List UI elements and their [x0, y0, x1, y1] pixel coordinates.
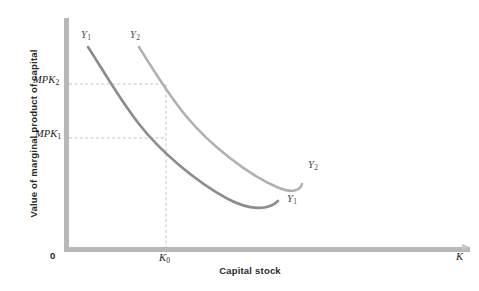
guide-lines — [69, 84, 166, 249]
y-tick-label-mpk2: MPK2 — [33, 74, 59, 87]
curve-y1 — [88, 47, 278, 208]
curve-label-y2-top: Y2 — [130, 29, 140, 42]
curve-y1-top-base: Y — [81, 29, 87, 40]
curve-y2-right-subscript: 2 — [314, 163, 318, 172]
chart-figure: Value of marginal product of capital Cap… — [0, 0, 479, 291]
y-tick-label-mpk1: MPK1 — [35, 128, 61, 141]
origin-label: 0 — [50, 250, 55, 261]
curve-y2-top-base: Y — [130, 29, 136, 40]
y-tick-mpk1-subscript: 1 — [57, 132, 61, 141]
curve-y1-top-subscript: 1 — [87, 33, 91, 42]
x-tick-k0-subscript: 0 — [166, 256, 170, 265]
chart-plot-area — [0, 0, 479, 291]
y-tick-mpk1-base: MPK — [35, 128, 57, 139]
x-tick-k0-base: K — [159, 252, 166, 263]
x-axis-end-label-k: K — [456, 251, 463, 262]
curve-label-y1-top: Y1 — [81, 29, 91, 42]
curve-y2-right-base: Y — [308, 159, 314, 170]
curve-label-y2-right: Y2 — [308, 159, 318, 172]
axes — [64, 18, 470, 250]
y-tick-mpk2-base: MPK — [33, 74, 55, 85]
curve-y1-right-subscript: 1 — [293, 197, 297, 206]
x-axis-title: Capital stock — [180, 265, 320, 276]
y-tick-mpk2-subscript: 2 — [55, 78, 59, 87]
curve-y2-top-subscript: 2 — [136, 33, 140, 42]
curve-y2 — [139, 47, 302, 191]
curve-label-y1-right: Y1 — [287, 193, 297, 206]
x-tick-label-k0: K0 — [159, 252, 170, 265]
curve-y1-right-base: Y — [287, 193, 293, 204]
x-axis-end-k-base: K — [456, 251, 463, 262]
